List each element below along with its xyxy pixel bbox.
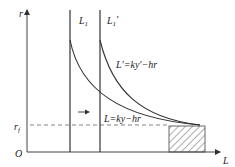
- L1-label: L1: [78, 15, 88, 28]
- liquidity-trap-region: [169, 126, 205, 152]
- origin-label: O: [15, 148, 22, 159]
- L-curve-label: L=ky−hr: [103, 113, 141, 124]
- L-prime-curve-label: L'=ky'−hr: [115, 59, 157, 70]
- y-axis-label: r: [19, 8, 23, 19]
- x-axis-label: L: [222, 155, 229, 166]
- L1-prime-label: L1': [106, 14, 119, 28]
- money-demand-diagram: r L O rf L1 L1' L'=ky'−hr L=ky−hr: [0, 0, 235, 167]
- rf-label: rf: [14, 121, 21, 134]
